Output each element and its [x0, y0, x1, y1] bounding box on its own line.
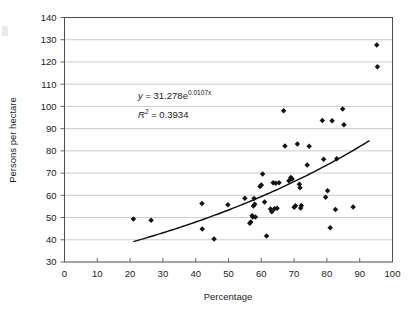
y-tick-label: 120: [41, 56, 57, 67]
scatter-plot: 30405060708090100110120130140 0102030405…: [0, 0, 417, 312]
y-tick-label: 110: [41, 79, 56, 90]
y-tick-label: 70: [46, 167, 57, 178]
y-tick-label: 80: [46, 145, 57, 156]
chart-background: [0, 0, 417, 312]
x-tick-label: 100: [385, 268, 401, 279]
x-tick-label: 90: [354, 268, 365, 279]
x-tick-label: 60: [256, 268, 267, 279]
y-tick-label: 40: [46, 234, 57, 245]
x-axis-title: Percentage: [204, 291, 253, 302]
r2-value: = 0.3934: [149, 109, 189, 120]
y-tick-label: 50: [46, 212, 57, 223]
y-tick-label: 130: [41, 34, 57, 45]
scan-artifact: [2, 26, 8, 36]
x-tick-label: 50: [223, 268, 234, 279]
y-tick-label: 100: [41, 101, 57, 112]
equation-exponent: 0.0107x: [188, 89, 212, 96]
x-tick-label: 40: [190, 268, 201, 279]
y-tick-label: 30: [46, 256, 57, 267]
x-tick-label: 30: [158, 268, 169, 279]
x-tick-label: 70: [289, 268, 300, 279]
x-tick-label: 80: [322, 268, 333, 279]
x-tick-label: 10: [92, 268, 103, 279]
chart-figure: 30405060708090100110120130140 0102030405…: [0, 0, 417, 312]
y-tick-label: 90: [46, 123, 57, 134]
y-tick-label: 60: [46, 190, 57, 201]
x-tick-label: 20: [125, 268, 136, 279]
y-axis-title: Persons per hectare: [7, 97, 18, 183]
equation-body: = 31.278e: [143, 90, 188, 101]
x-tick-label: 0: [62, 268, 67, 279]
y-tick-label: 140: [41, 12, 57, 23]
